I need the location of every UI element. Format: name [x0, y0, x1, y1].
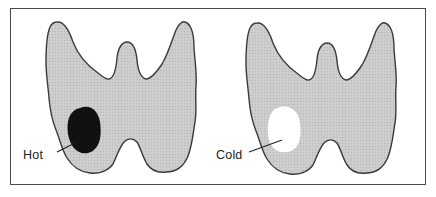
cold-label: Cold [216, 148, 243, 162]
hot-label: Hot [23, 148, 43, 162]
thyroid-gland-hot-panel [46, 22, 196, 173]
thyroid-gland-cold-panel [246, 23, 396, 174]
thyroid-outline [246, 23, 396, 174]
thyroid-diagram [0, 0, 436, 197]
cold-nodule [268, 107, 301, 153]
thyroid-outline [46, 22, 196, 173]
